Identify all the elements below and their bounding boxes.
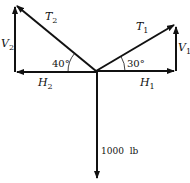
load-label: 1000 lb	[101, 147, 138, 156]
angle-label-right: 30°	[127, 59, 145, 69]
label-h1: H1	[140, 77, 155, 91]
angle-label-left: 40°	[52, 59, 70, 69]
label-h2: H2	[38, 77, 53, 91]
label-t1: T1	[136, 21, 148, 35]
force-diagram	[0, 0, 190, 183]
angle-arc-right	[121, 57, 125, 72]
label-v1: V1	[178, 42, 190, 56]
label-v2: V2	[1, 38, 14, 52]
label-t2: T2	[45, 11, 57, 25]
